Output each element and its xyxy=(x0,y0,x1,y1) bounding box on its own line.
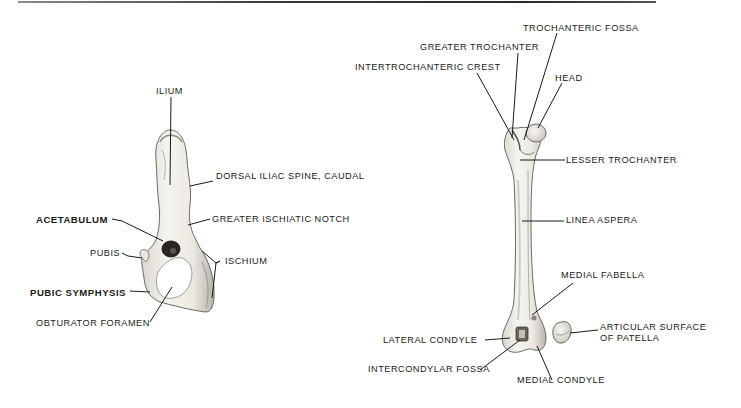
label-dorsal-iliac-spine: DORSAL ILIAC SPINE, CAUDAL xyxy=(216,171,364,182)
patella-illustration xyxy=(553,322,571,344)
pubis-shape xyxy=(140,250,149,262)
label-obturator-foramen: OBTURATOR FORAMEN xyxy=(36,318,150,329)
label-lateral-condyle: LATERAL CONDYLE xyxy=(383,335,477,346)
label-head: HEAD xyxy=(555,73,583,84)
label-ilium: ILIUM xyxy=(156,86,183,97)
femur-illustration xyxy=(502,124,546,352)
label-pubic-symphysis: PUBIC SYMPHYSIS xyxy=(30,287,126,298)
label-medial-condyle: MEDIAL CONDYLE xyxy=(517,375,605,386)
label-greater-trochanter: GREATER TROCHANTER xyxy=(420,42,539,53)
label-intertrochanteric-crest: INTERTROCHANTERIC CREST xyxy=(355,62,501,73)
label-intercondylar-fossa: INTERCONDYLAR FOSSA xyxy=(368,364,490,375)
label-medial-fabella: MEDIAL FABELLA xyxy=(561,270,644,281)
label-acetabulum: ACETABULUM xyxy=(36,214,108,225)
label-lesser-trochanter: LESSER TROCHANTER xyxy=(566,155,677,166)
label-ischium: ISCHIUM xyxy=(225,256,267,267)
label-trochanteric-fossa: TROCHANTERIC FOSSA xyxy=(523,23,639,34)
label-linea-aspera: LINEA ASPERA xyxy=(566,215,637,226)
label-pubis: PUBIS xyxy=(90,248,120,259)
femur-shaft-shape xyxy=(502,127,546,352)
label-greater-ischiatic-notch: GREATER ISCHIATIC NOTCH xyxy=(212,214,350,225)
anatomy-diagram: ILIUM DORSAL ILIAC SPINE, CAUDAL ACETABU… xyxy=(0,0,741,408)
label-articular-surface-line1: ARTICULAR SURFACE xyxy=(600,322,706,333)
patella-shape xyxy=(553,322,571,344)
femoral-head-shape xyxy=(526,124,546,142)
label-articular-surface-line2: OF PATELLA xyxy=(600,333,659,344)
